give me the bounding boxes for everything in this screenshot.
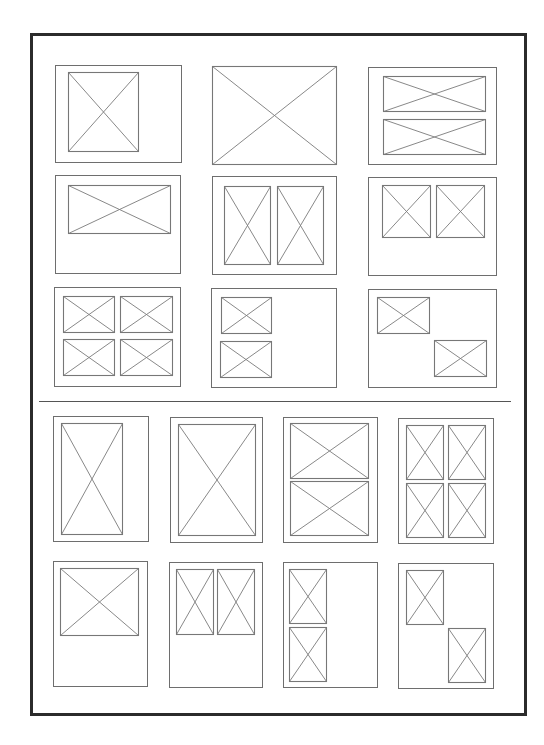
layout-template-p2[interactable] [170,417,263,543]
layout-template-p3[interactable] [283,417,378,543]
image-placeholder-icon [448,425,486,480]
image-placeholder-icon [178,424,256,536]
image-placeholder-icon [448,483,486,538]
image-placeholder-icon [406,425,444,480]
image-placeholder-icon [289,569,327,624]
image-placeholder-icon [176,569,214,635]
layout-template-p4[interactable] [398,418,494,544]
image-placeholder-icon [290,423,369,479]
image-placeholder-icon [212,66,337,165]
layout-template-l8[interactable] [211,288,337,388]
image-placeholder-icon [436,185,485,238]
layout-template-l4[interactable] [55,175,181,274]
image-placeholder-icon [289,627,327,682]
image-placeholder-icon [383,119,486,155]
image-placeholder-icon [63,296,115,333]
layout-template-l1[interactable] [55,65,182,163]
image-placeholder-icon [406,570,444,625]
layout-template-l7[interactable] [54,287,181,387]
layout-template-p1[interactable] [53,416,149,542]
image-placeholder-icon [406,483,444,538]
image-placeholder-icon [221,297,272,334]
layout-template-p6[interactable] [169,562,263,688]
layout-template-l3[interactable] [368,67,497,165]
layout-template-l9[interactable] [368,289,497,388]
image-placeholder-icon [448,628,486,683]
image-placeholder-icon [383,76,486,112]
image-placeholder-icon [60,568,139,636]
image-placeholder-icon [217,569,255,635]
layout-template-p7[interactable] [283,562,378,688]
image-placeholder-icon [382,185,431,238]
image-placeholder-icon [377,297,430,334]
section-divider [39,401,511,402]
image-placeholder-icon [68,185,171,234]
image-placeholder-icon [434,340,487,377]
image-placeholder-icon [120,339,173,376]
layout-template-l5[interactable] [212,176,337,275]
layout-template-p5[interactable] [53,561,148,687]
image-placeholder-icon [61,423,123,535]
image-placeholder-icon [277,186,324,265]
image-placeholder-icon [120,296,173,333]
layout-template-l6[interactable] [368,177,497,276]
image-placeholder-icon [220,341,272,378]
layout-template-p8[interactable] [398,563,494,689]
layout-template-l2[interactable] [212,66,337,165]
image-placeholder-icon [63,339,115,376]
image-placeholder-icon [68,72,139,152]
image-placeholder-icon [290,481,369,536]
image-placeholder-icon [224,186,271,265]
